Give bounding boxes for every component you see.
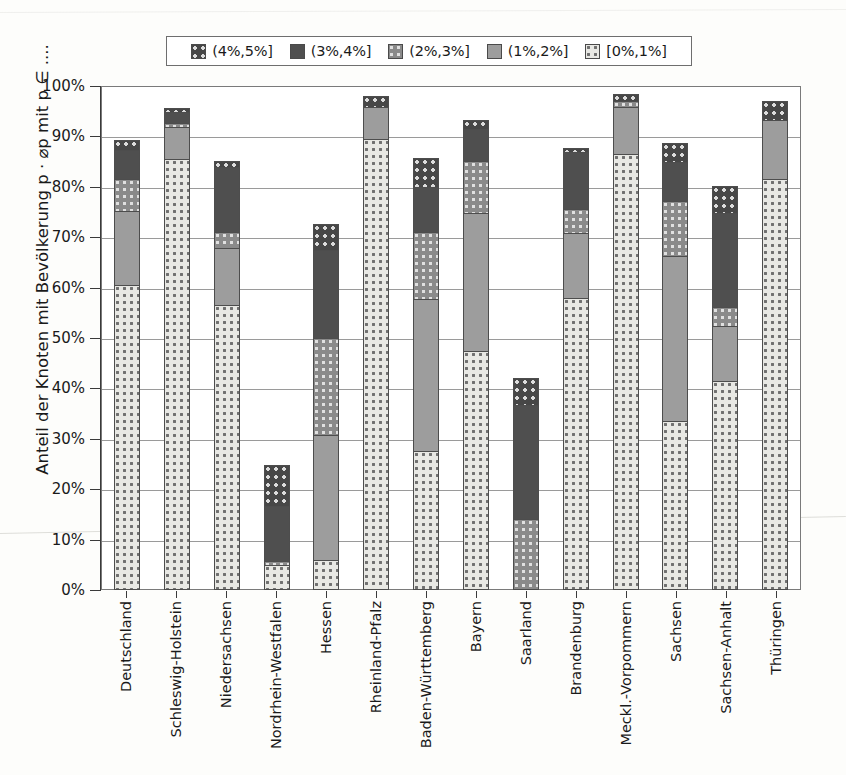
- bar-segment[interactable]: [513, 378, 539, 406]
- x-tick-label: Nordrhein-Westfalen: [268, 601, 284, 749]
- bar-segment[interactable]: [613, 154, 639, 590]
- x-tick-label: Thüringen: [768, 601, 784, 675]
- bar-segment[interactable]: [164, 127, 190, 160]
- x-tick-label: Schleswig-Holstein: [168, 601, 184, 737]
- legend-item-3[interactable]: (1%,2%]: [487, 43, 569, 59]
- x-tick-slot: Meckl.-Vorpommern: [601, 591, 651, 775]
- bar-segment[interactable]: [563, 298, 589, 590]
- bar-segment[interactable]: [264, 565, 290, 590]
- bar-segment[interactable]: [463, 129, 489, 162]
- stacked-bar[interactable]: [363, 96, 389, 589]
- bar-slot: [351, 87, 401, 589]
- stacked-bar[interactable]: [214, 161, 240, 589]
- bar-slot: [551, 87, 601, 589]
- bar-segment[interactable]: [762, 120, 788, 180]
- bar-segment[interactable]: [712, 307, 738, 327]
- x-tick-label: Saarland: [518, 601, 534, 665]
- legend-swatch-mid-dotted-icon: [388, 44, 403, 59]
- bar-slot: [401, 87, 451, 589]
- bar-segment[interactable]: [513, 405, 539, 521]
- stacked-bar[interactable]: [463, 120, 489, 589]
- bar-segment[interactable]: [712, 326, 738, 381]
- legend-item-2[interactable]: (2%,3%]: [388, 43, 470, 59]
- bar-group: [102, 87, 800, 589]
- bar-segment[interactable]: [413, 299, 439, 453]
- bar-segment[interactable]: [563, 209, 589, 234]
- x-tick-slot: Schleswig-Holstein: [151, 591, 201, 775]
- bar-segment[interactable]: [712, 186, 738, 214]
- bar-segment[interactable]: [662, 143, 688, 163]
- bar-segment[interactable]: [463, 213, 489, 352]
- stacked-bar[interactable]: [513, 378, 539, 589]
- bar-segment[interactable]: [712, 213, 738, 309]
- bar-segment[interactable]: [463, 351, 489, 590]
- x-tick-mark: [426, 591, 427, 598]
- bar-segment[interactable]: [662, 256, 688, 422]
- bar-segment[interactable]: [114, 179, 140, 212]
- bar-segment[interactable]: [313, 250, 339, 338]
- bar-slot: [601, 87, 651, 589]
- bar-segment[interactable]: [413, 232, 439, 300]
- stacked-bar[interactable]: [662, 143, 688, 589]
- bar-segment[interactable]: [214, 167, 240, 233]
- x-tick-label: Deutschland: [118, 601, 134, 692]
- bar-segment[interactable]: [214, 248, 240, 306]
- bar-segment[interactable]: [613, 107, 639, 155]
- legend-item-1[interactable]: (3%,4%]: [290, 43, 372, 59]
- stacked-bar[interactable]: [313, 224, 339, 589]
- bar-segment[interactable]: [164, 159, 190, 590]
- x-tick-mark: [576, 591, 577, 598]
- bar-segment[interactable]: [114, 150, 140, 180]
- y-tick-label: 80%: [52, 178, 85, 196]
- stacked-bar[interactable]: [762, 101, 788, 589]
- bar-segment[interactable]: [363, 139, 389, 590]
- bar-slot: [501, 87, 551, 589]
- stacked-bar[interactable]: [563, 148, 589, 589]
- bar-segment[interactable]: [413, 158, 439, 188]
- bar-segment[interactable]: [313, 224, 339, 252]
- bar-segment[interactable]: [463, 161, 489, 214]
- legend-item-0[interactable]: (4%,5%]: [191, 43, 273, 59]
- x-tick-mark: [676, 591, 677, 598]
- bar-slot: [301, 87, 351, 589]
- bar-segment[interactable]: [264, 465, 290, 508]
- bar-segment[interactable]: [762, 101, 788, 121]
- bar-segment[interactable]: [313, 435, 339, 561]
- legend-swatch-light-dotted-icon: [585, 44, 600, 59]
- bar-segment[interactable]: [563, 233, 589, 299]
- stacked-bar-chart: (4%,5%](3%,4%](2%,3%](1%,2%][0%,1%] Ante…: [0, 0, 846, 775]
- legend-item-4[interactable]: [0%,1%]: [585, 43, 667, 59]
- bar-slot: [202, 87, 252, 589]
- bar-segment[interactable]: [563, 152, 589, 210]
- bar-segment[interactable]: [662, 201, 688, 256]
- bar-segment[interactable]: [413, 187, 439, 232]
- bar-segment[interactable]: [214, 305, 240, 590]
- bar-segment[interactable]: [114, 285, 140, 590]
- x-tick-mark: [276, 591, 277, 598]
- x-tick-label: Sachsen: [668, 601, 684, 662]
- bar-segment[interactable]: [662, 162, 688, 202]
- x-tick-mark: [776, 591, 777, 598]
- bar-segment[interactable]: [214, 232, 240, 250]
- stacked-bar[interactable]: [413, 158, 439, 589]
- stacked-bar[interactable]: [264, 465, 290, 589]
- bar-segment[interactable]: [513, 519, 539, 590]
- bar-segment[interactable]: [712, 381, 738, 590]
- stacked-bar[interactable]: [164, 108, 190, 589]
- bar-slot: [252, 87, 302, 589]
- bar-segment[interactable]: [264, 506, 290, 561]
- bar-segment[interactable]: [762, 179, 788, 590]
- x-axis: DeutschlandSchleswig-HolsteinNiedersachs…: [101, 591, 801, 775]
- bar-segment[interactable]: [114, 211, 140, 287]
- bar-segment[interactable]: [363, 107, 389, 140]
- x-tick-label: Rheinland-Pfalz: [368, 601, 384, 713]
- x-tick-mark: [176, 591, 177, 598]
- bar-segment[interactable]: [313, 338, 339, 436]
- bar-segment[interactable]: [313, 560, 339, 590]
- stacked-bar[interactable]: [712, 186, 738, 589]
- stacked-bar[interactable]: [114, 140, 140, 589]
- x-tick-label: Bayern: [468, 601, 484, 652]
- bar-segment[interactable]: [413, 451, 439, 590]
- stacked-bar[interactable]: [613, 94, 639, 589]
- bar-segment[interactable]: [662, 421, 688, 590]
